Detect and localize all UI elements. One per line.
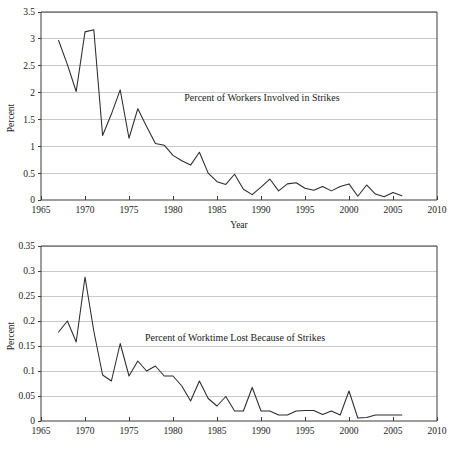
svg-text:3.5: 3.5 (23, 7, 35, 17)
svg-text:2000: 2000 (340, 205, 359, 215)
svg-text:1980: 1980 (164, 205, 183, 215)
figure-strikes: 00.511.522.533.5 19651970197519801985199… (0, 0, 455, 452)
chart-worktime-lost: 00.050.10.150.20.250.30.35 1965197019751… (0, 232, 455, 452)
xticks-top (38, 12, 438, 200)
svg-text:1965: 1965 (32, 205, 51, 215)
chart-worktime-lost-svg: 00.050.10.150.20.250.30.35 1965197019751… (0, 232, 455, 452)
svg-text:0.3: 0.3 (23, 266, 35, 276)
svg-text:0.5: 0.5 (23, 169, 35, 179)
xlabel-top: Year (230, 220, 248, 230)
svg-text:1985: 1985 (208, 205, 227, 215)
svg-text:0.1: 0.1 (23, 366, 35, 376)
svg-text:2010: 2010 (428, 205, 447, 215)
svg-text:2000: 2000 (340, 426, 359, 436)
xticklabels-bottom: 1965197019751980198519901995200020052010 (32, 426, 447, 436)
chart-workers-involved-svg: 00.511.522.533.5 19651970197519801985199… (0, 0, 455, 232)
svg-text:1970: 1970 (76, 426, 95, 436)
svg-text:1990: 1990 (252, 205, 271, 215)
svg-text:0.35: 0.35 (18, 241, 35, 251)
svg-text:2.5: 2.5 (23, 61, 35, 71)
ylabel-bottom: Percent (6, 321, 16, 350)
svg-text:1995: 1995 (296, 426, 315, 436)
svg-text:1970: 1970 (76, 205, 95, 215)
svg-text:2005: 2005 (384, 205, 403, 215)
svg-text:0.15: 0.15 (18, 341, 35, 351)
svg-text:1965: 1965 (32, 426, 51, 436)
svg-text:1995: 1995 (296, 205, 315, 215)
svg-text:1990: 1990 (252, 426, 271, 436)
chart-workers-involved: 00.511.522.533.5 19651970197519801985199… (0, 0, 455, 232)
svg-text:0.25: 0.25 (18, 291, 35, 301)
svg-text:2005: 2005 (384, 426, 403, 436)
xticklabels-top: 1965197019751980198519901995200020052010 (32, 205, 447, 215)
svg-text:0.2: 0.2 (23, 316, 35, 326)
ylabel-top: Percent (6, 103, 16, 132)
svg-text:1980: 1980 (164, 426, 183, 436)
series-annotation-workers-involved: Percent of Workers Involved in Strikes (184, 92, 339, 103)
svg-text:0.05: 0.05 (18, 391, 35, 401)
svg-text:0: 0 (30, 416, 35, 426)
yticklabels-top: 00.511.522.533.5 (23, 7, 35, 205)
svg-text:0: 0 (30, 195, 35, 205)
svg-text:2: 2 (30, 88, 35, 98)
svg-text:3: 3 (30, 34, 35, 44)
svg-text:1.5: 1.5 (23, 115, 35, 125)
svg-text:2010: 2010 (428, 426, 447, 436)
yticklabels-bottom: 00.050.10.150.20.250.30.35 (18, 241, 35, 426)
series-annotation-worktime-lost: Percent of Worktime Lost Because of Stri… (145, 332, 325, 343)
svg-text:1985: 1985 (208, 426, 227, 436)
dataline-workers-involved (59, 30, 402, 197)
gridlines-bottom (41, 246, 437, 396)
svg-text:1975: 1975 (120, 426, 139, 436)
svg-text:1975: 1975 (120, 205, 139, 215)
dataline-worktime-lost (59, 277, 402, 418)
svg-text:1: 1 (30, 142, 35, 152)
